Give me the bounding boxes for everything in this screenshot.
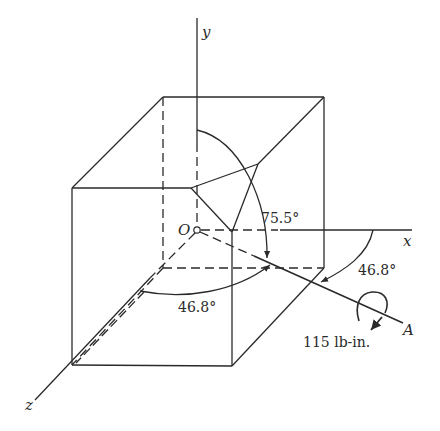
- moment-label: 115 lb-in.: [303, 334, 370, 350]
- origin-label: O: [178, 221, 190, 239]
- diagram-canvas: y x z O A 75.5° 46.8° 46.8° 115 lb-in.: [0, 0, 440, 431]
- moment-arrowhead: [371, 317, 382, 330]
- oa-line: [200, 232, 254, 256]
- angle-label-x: 46.8°: [358, 262, 396, 278]
- x-axis-label: x: [403, 232, 412, 250]
- moment-arc: [357, 292, 387, 321]
- z-axis-label: z: [24, 396, 33, 414]
- z-axis: [35, 233, 195, 400]
- angle-label-z: 46.8°: [178, 299, 216, 315]
- y-axis-label: y: [201, 23, 211, 41]
- inclined-facet: [191, 97, 324, 262]
- origin-point: [194, 227, 200, 233]
- angle-arc-z: [140, 265, 270, 295]
- point-a-label: A: [401, 321, 414, 339]
- angle-label-y: 75.5°: [261, 210, 299, 226]
